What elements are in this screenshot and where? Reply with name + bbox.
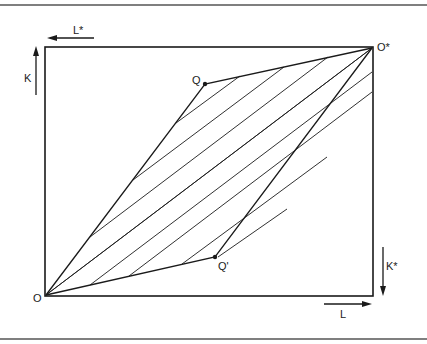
label-q: Q [192,74,201,86]
label-k-star: K* [386,260,398,272]
label-q-prime: Q' [218,260,229,272]
label-l: L [340,308,346,320]
label-k: K [24,72,32,84]
point-q-prime-marker [213,255,217,259]
label-l-star: L* [73,24,84,36]
label-origin: O [33,292,42,304]
point-q-marker [203,82,207,86]
label-origin-star: O* [377,41,391,53]
edgeworth-box-diagram: O O* Q Q' K L* K* L [0,0,427,344]
